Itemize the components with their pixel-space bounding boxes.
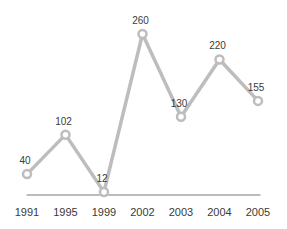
line-chart: 4019911021995121999260200213020032202004… xyxy=(0,0,287,229)
x-axis-label-2004: 2004 xyxy=(207,206,231,218)
point-label-2005: 155 xyxy=(248,82,265,93)
point-label-1995: 102 xyxy=(55,116,72,127)
point-label-1991: 40 xyxy=(19,155,31,166)
data-point-marker-1991 xyxy=(23,170,31,178)
x-axis-label-1995: 1995 xyxy=(53,206,77,218)
data-point-marker-1999 xyxy=(100,188,108,196)
x-axis-label-2002: 2002 xyxy=(130,206,154,218)
point-label-1999: 12 xyxy=(96,173,108,184)
data-point-marker-2003 xyxy=(177,113,185,121)
x-axis-label-1999: 1999 xyxy=(92,206,116,218)
data-point-marker-2002 xyxy=(139,30,147,38)
point-label-2004: 220 xyxy=(209,40,226,51)
data-point-marker-2005 xyxy=(254,97,262,105)
chart-container: 4019911021995121999260200213020032202004… xyxy=(0,0,287,229)
data-point-marker-2004 xyxy=(216,55,224,63)
x-axis-label-1991: 1991 xyxy=(15,206,39,218)
point-label-2003: 130 xyxy=(171,98,188,109)
data-point-marker-1995 xyxy=(62,131,70,139)
point-label-2002: 260 xyxy=(132,15,149,26)
x-axis-label-2003: 2003 xyxy=(169,206,193,218)
x-axis-label-2005: 2005 xyxy=(246,206,270,218)
